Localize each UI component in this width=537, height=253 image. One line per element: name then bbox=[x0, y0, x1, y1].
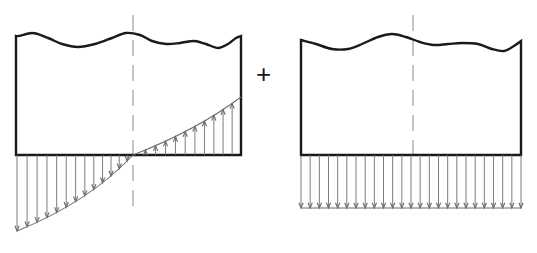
load-arrow bbox=[212, 115, 216, 155]
load-arrow bbox=[400, 155, 404, 208]
load-arrow bbox=[173, 136, 177, 155]
load-arrow bbox=[109, 155, 113, 176]
load-arrow bbox=[74, 155, 78, 202]
right-panel bbox=[299, 15, 523, 208]
left-panel bbox=[15, 15, 241, 231]
load-arrow bbox=[308, 155, 312, 208]
wall-section-outline bbox=[16, 33, 241, 155]
load-arrow bbox=[491, 155, 495, 208]
load-arrow bbox=[230, 103, 234, 155]
left-panel-pressure-envelope bbox=[17, 97, 241, 231]
load-arrow bbox=[354, 155, 358, 208]
load-arrow bbox=[35, 155, 39, 222]
load-arrow bbox=[92, 155, 96, 189]
load-arrow bbox=[519, 155, 523, 208]
load-arrow bbox=[202, 121, 206, 155]
load-arrow bbox=[326, 155, 330, 208]
load-arrow bbox=[83, 155, 87, 196]
right-panel-body-outline bbox=[301, 34, 521, 155]
load-arrow bbox=[446, 155, 450, 208]
load-arrow bbox=[436, 155, 440, 208]
load-arrow bbox=[15, 155, 19, 231]
load-arrow bbox=[100, 155, 104, 183]
left-panel-body-outline bbox=[16, 33, 241, 155]
pressure-envelope-line bbox=[17, 97, 241, 231]
load-arrow bbox=[381, 155, 385, 208]
load-arrow bbox=[163, 141, 167, 155]
load-arrow bbox=[317, 155, 321, 208]
right-panel-load-arrows bbox=[299, 155, 523, 208]
load-arrow bbox=[473, 155, 477, 208]
load-arrow bbox=[372, 155, 376, 208]
pressure-superposition-figure bbox=[0, 0, 537, 253]
load-arrow bbox=[336, 155, 340, 208]
load-arrow bbox=[221, 110, 225, 155]
load-arrow bbox=[55, 155, 59, 213]
load-arrow bbox=[427, 155, 431, 208]
load-arrow bbox=[183, 132, 187, 155]
load-arrow bbox=[64, 155, 68, 207]
load-arrow bbox=[45, 155, 49, 218]
load-arrow bbox=[299, 155, 303, 208]
load-arrow bbox=[193, 126, 197, 155]
load-arrow bbox=[345, 155, 349, 208]
load-arrow bbox=[25, 155, 29, 227]
load-arrow bbox=[510, 155, 514, 208]
load-arrow bbox=[501, 155, 505, 208]
load-arrow bbox=[464, 155, 468, 208]
load-arrow bbox=[455, 155, 459, 208]
diagram-canvas: + bbox=[0, 0, 537, 253]
plus-operator: + bbox=[256, 61, 271, 87]
load-arrow bbox=[482, 155, 486, 208]
load-arrow bbox=[153, 146, 157, 155]
load-arrow bbox=[363, 155, 367, 208]
wall-section-outline bbox=[301, 34, 521, 155]
load-arrow bbox=[391, 155, 395, 208]
load-arrow bbox=[409, 155, 413, 208]
load-arrow bbox=[418, 155, 422, 208]
